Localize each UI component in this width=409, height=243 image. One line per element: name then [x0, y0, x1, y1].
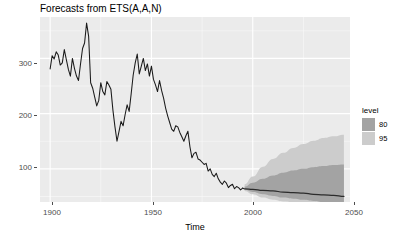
legend-label-95: 95 — [379, 134, 387, 143]
x-tick-label-1900: 1900 — [43, 208, 61, 217]
legend-swatch-80 — [362, 118, 375, 131]
legend-swatch-95 — [362, 132, 375, 145]
x-tick-label-2000: 2000 — [244, 208, 262, 217]
observed-series-line — [50, 23, 242, 190]
legend-item-80[interactable]: 80 — [362, 118, 387, 131]
chart-root: Forecasts from ETS(A,A,N) 300 200 100 19… — [0, 0, 409, 243]
x-tick-mark-1950 — [153, 202, 154, 205]
x-tick-label-2050: 2050 — [345, 208, 363, 217]
legend-item-95[interactable]: 95 — [362, 132, 387, 145]
x-tick-label-1950: 1950 — [144, 208, 162, 217]
legend-label-80: 80 — [379, 120, 387, 129]
x-tick-mark-1900 — [52, 202, 53, 205]
x-axis-ticks: 1900 1950 2000 2050 — [0, 202, 409, 218]
legend: level 80 95 — [362, 106, 387, 146]
x-tick-mark-2000 — [253, 202, 254, 205]
legend-title: level — [362, 106, 387, 115]
page-title: Forecasts from ETS(A,A,N) — [40, 3, 162, 14]
y-tick-label-300: 300 — [0, 59, 32, 68]
y-tick-mark-300 — [34, 63, 37, 64]
x-tick-mark-2050 — [354, 202, 355, 205]
y-tick-mark-100 — [34, 167, 37, 168]
x-axis-title: Time — [0, 222, 390, 232]
y-tick-mark-200 — [34, 115, 37, 116]
y-tick-label-200: 200 — [0, 111, 32, 120]
y-tick-label-100: 100 — [0, 163, 32, 172]
y-axis-ticks: 300 200 100 — [0, 17, 32, 202]
plot-panel — [40, 17, 350, 202]
plot-canvas — [40, 17, 350, 202]
